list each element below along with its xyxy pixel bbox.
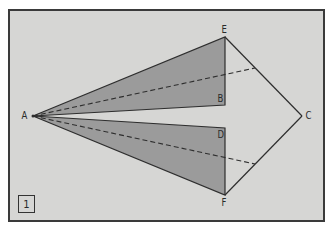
point-A-marker	[32, 115, 35, 118]
triangle-AEB	[33, 37, 225, 116]
edge-FC	[225, 116, 302, 195]
edge-EC	[225, 37, 302, 116]
triangle-ADF	[33, 116, 225, 195]
label-A: A	[22, 111, 28, 121]
label-B: B	[218, 94, 224, 104]
figure-number: 1	[23, 199, 29, 210]
geometry-diagram	[0, 0, 333, 231]
figure-number-box: 1	[18, 195, 35, 213]
label-E: E	[221, 25, 226, 35]
label-C: C	[306, 111, 312, 121]
label-F: F	[221, 198, 226, 208]
label-D: D	[218, 130, 225, 140]
